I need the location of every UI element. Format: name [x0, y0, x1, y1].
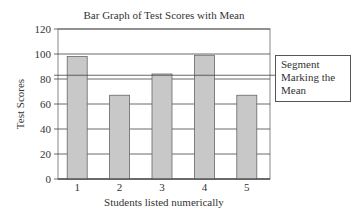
x-tick-label: 5 [244, 181, 250, 193]
x-axis-label: Students listed numerically [104, 196, 224, 208]
x-tick-label: 3 [159, 181, 165, 193]
y-tick-label: 40 [40, 123, 52, 135]
bar [194, 55, 214, 179]
legend-line: Mean [281, 84, 345, 97]
y-tick-label: 20 [40, 148, 52, 160]
y-tick-label: 120 [35, 23, 52, 35]
legend-line: Segment [281, 58, 345, 71]
y-axis-label: Test Scores [14, 79, 26, 129]
legend: Segment Marking the Mean [275, 55, 351, 102]
legend-line: Marking the [281, 71, 345, 84]
y-tick-label: 100 [35, 48, 52, 60]
x-tick-label: 4 [202, 181, 208, 193]
bar [110, 95, 130, 179]
y-tick-label: 0 [46, 173, 52, 185]
x-tick-label: 2 [117, 181, 123, 193]
y-tick-label: 60 [40, 98, 52, 110]
chart-title: Bar Graph of Test Scores with Mean [84, 9, 245, 21]
y-tick-label: 80 [40, 73, 52, 85]
bar [237, 95, 257, 179]
bar [152, 74, 172, 179]
x-tick-label: 1 [74, 181, 80, 193]
bar-chart: Bar Graph of Test Scores with Mean020406… [0, 0, 363, 224]
